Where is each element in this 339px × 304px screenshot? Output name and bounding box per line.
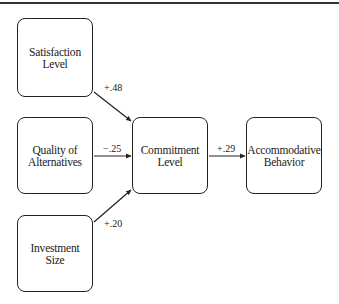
node-accommodative-behavior: Accommodative Behavior — [246, 117, 322, 194]
node-label: Satisfaction Level — [29, 46, 81, 70]
node-satisfaction-level: Satisfaction Level — [17, 18, 93, 97]
node-label: Accommodative Behavior — [247, 144, 320, 168]
node-quality-of-alternatives: Quality of Alternatives — [17, 117, 93, 194]
node-commitment-level: Commitment Level — [132, 117, 208, 194]
edge-satisfaction-commitment — [94, 92, 131, 121]
node-label: Commitment Level — [141, 144, 200, 168]
node-label: Quality of Alternatives — [28, 144, 82, 168]
coef-satisfaction: +.48 — [104, 83, 122, 93]
coef-investment: +.20 — [104, 219, 122, 229]
node-investment-size: Investment Size — [17, 215, 93, 292]
coef-commitment: +.29 — [217, 144, 235, 154]
node-label: Investment Size — [30, 242, 79, 266]
coef-quality: −.25 — [103, 144, 121, 154]
